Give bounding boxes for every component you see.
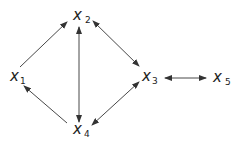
graph-diagram: x1 x2 x3 x4 x5 — [0, 0, 237, 144]
node-x3: x3 — [141, 67, 158, 86]
node-x4: x4 — [72, 120, 90, 139]
node-x5: x5 — [212, 68, 231, 87]
edge-x4-to-x1 — [24, 86, 67, 123]
node-x1: x1 — [9, 67, 26, 86]
node-x2: x2 — [72, 6, 91, 25]
edge-x4-x3-bidirectional — [92, 82, 139, 125]
edge-x2-x3-bidirectional — [93, 21, 139, 66]
edge-x1-to-x2 — [20, 22, 67, 67]
